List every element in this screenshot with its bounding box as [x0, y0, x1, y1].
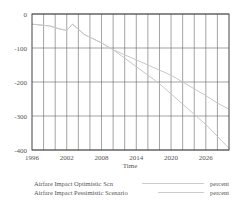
legend-line-swatch — [142, 183, 204, 184]
line-chart: 0-100-200-300-400 1996200220082014202020… — [0, 0, 238, 203]
series-optimistic-line — [32, 24, 229, 109]
x-axis-ticks: 199620022008201420202026 — [25, 154, 213, 162]
legend-line-swatch — [158, 192, 204, 193]
x-tick-label: 2002 — [60, 154, 75, 162]
y-tick-label: -100 — [14, 45, 27, 53]
x-tick-label: 2020 — [164, 154, 179, 162]
grid — [32, 14, 229, 150]
y-tick-label: -300 — [14, 113, 27, 121]
x-tick-label: 2026 — [199, 154, 214, 162]
y-tick-label: -200 — [14, 79, 27, 87]
series-lines — [32, 24, 229, 148]
series-pessimistic-line — [32, 24, 229, 148]
legend-label: Airfare Impact Optimistic Scn — [34, 180, 113, 187]
legend-unit: percent — [210, 180, 229, 187]
y-axis-ticks: 0-100-200-300-400 — [14, 11, 27, 155]
x-tick-label: 2014 — [129, 154, 144, 162]
x-axis-label: Time — [123, 162, 138, 170]
x-tick-label: 1996 — [25, 154, 40, 162]
x-tick-label: 2008 — [95, 154, 110, 162]
legend-label: Airfare Impact Pessimistic Scenario — [34, 189, 128, 196]
legend-unit: percent — [210, 189, 229, 196]
y-tick-label: 0 — [24, 11, 28, 19]
